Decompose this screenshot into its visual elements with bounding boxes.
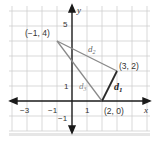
segment-label-d2: d2 (88, 44, 96, 55)
x-tick-label: −1 (48, 106, 58, 115)
x-axis-right-arrow-icon (143, 98, 150, 104)
y-axis-down-arrow-icon (69, 126, 75, 133)
segment-label-d1: d1 (114, 81, 123, 94)
coordinate-plane-figure: y x −3 −1 1 5 1 −1 (−1, 4) (3, 2) (2, 0)… (0, 0, 158, 148)
coordinate-plane-svg: y x −3 −1 1 5 1 −1 (−1, 4) (3, 2) (2, 0)… (0, 0, 158, 148)
figure-shadow (9, 133, 150, 136)
point-label-c: (2, 0) (104, 106, 124, 116)
y-axis-label: y (76, 5, 81, 15)
x-axis-label: x (143, 105, 148, 115)
y-axis (69, 5, 75, 133)
point-label-a: (−1, 4) (25, 28, 50, 38)
x-axis (10, 98, 150, 104)
y-tick-label: 1 (64, 82, 69, 91)
x-axis-left-arrow-icon (10, 98, 17, 104)
segment-label-d3: d3 (79, 81, 87, 92)
y-tick-label: 5 (63, 20, 68, 29)
x-tick-label: 1 (85, 106, 90, 115)
point-label-b: (3, 2) (119, 61, 139, 71)
x-tick-label: −3 (20, 106, 30, 115)
y-tick-label: −1 (58, 114, 68, 123)
y-axis-up-arrow-icon (69, 5, 75, 12)
